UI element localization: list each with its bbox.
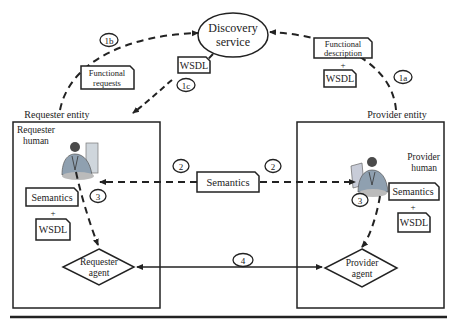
svg-text:3: 3: [96, 192, 101, 202]
arrow-3-left: [76, 172, 98, 245]
requester-plus-sign: +: [50, 208, 55, 218]
svg-text:2: 2: [271, 162, 276, 172]
svg-text:description: description: [324, 48, 363, 58]
svg-text:Provider: Provider: [346, 258, 380, 268]
svg-text:WSDL: WSDL: [180, 60, 208, 71]
requester-agent-node: Requester agent: [63, 249, 134, 285]
svg-text:1b: 1b: [105, 36, 115, 46]
plus-sign-top: +: [340, 60, 345, 70]
svg-text:4: 4: [241, 256, 246, 266]
svg-text:1c: 1c: [182, 81, 191, 91]
requester-wsdl-doc: WSDL: [36, 219, 70, 240]
provider-entity-label: Provider entity: [367, 109, 427, 120]
svg-text:3: 3: [358, 196, 363, 206]
svg-text:agent: agent: [352, 269, 373, 279]
arrow-1c: [133, 80, 172, 113]
requester-semantics-doc: Semantics: [26, 188, 78, 206]
svg-text:Semantics: Semantics: [206, 177, 249, 188]
step-4: 4: [233, 254, 253, 267]
discovery-service-label-1: Discovery: [208, 21, 257, 35]
provider-wsdl-doc: WSDL: [398, 213, 430, 232]
functional-requests-doc: Functional requests: [81, 66, 134, 89]
functional-description-doc: Functional description: [314, 38, 372, 58]
svg-text:requests: requests: [93, 78, 121, 88]
wsdl-doc-1a: WSDL: [324, 70, 356, 87]
wsdl-doc-1c: WSDL: [178, 57, 210, 73]
discovery-service-node: Discovery service: [198, 13, 268, 57]
semantics-center-doc: Semantics: [197, 172, 259, 192]
requester-entity-label: Requester entity: [24, 109, 89, 120]
svg-text:WSDL: WSDL: [400, 217, 428, 228]
svg-text:Functional: Functional: [89, 68, 126, 78]
step-1c: 1c: [177, 79, 195, 92]
provider-agent-node: Provider agent: [325, 249, 397, 287]
svg-text:WSDL: WSDL: [326, 73, 354, 84]
web-service-discovery-diagram: Discovery service Functional requests WS…: [0, 0, 456, 324]
discovery-service-label-2: service: [216, 35, 250, 49]
requester-human-icon: [62, 142, 98, 180]
svg-text:1a: 1a: [399, 73, 408, 83]
step-1a: 1a: [394, 71, 412, 84]
step-3-left: 3: [90, 190, 106, 203]
svg-text:2: 2: [179, 162, 184, 172]
svg-text:WSDL: WSDL: [39, 224, 67, 235]
provider-human-icon: [351, 157, 388, 197]
step-2-left: 2: [173, 160, 189, 173]
requester-human-label-1: Requester: [17, 125, 56, 135]
step-3-right: 3: [352, 194, 368, 207]
svg-text:Requester: Requester: [80, 257, 119, 267]
svg-text:agent: agent: [89, 268, 110, 278]
step-2-right: 2: [265, 160, 281, 173]
svg-text:Semantics: Semantics: [392, 186, 433, 197]
provider-plus-sign: +: [410, 202, 415, 212]
provider-human-label-2: human: [411, 163, 437, 173]
requester-human-label-2: human: [23, 136, 49, 146]
provider-semantics-doc: Semantics: [389, 183, 439, 200]
provider-human-label-1: Provider: [407, 152, 441, 162]
step-1b: 1b: [100, 34, 118, 47]
svg-text:Semantics: Semantics: [31, 192, 72, 203]
